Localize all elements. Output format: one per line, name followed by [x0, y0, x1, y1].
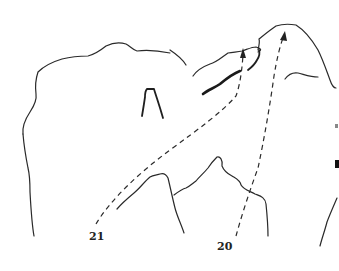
- leader-line-20: [236, 38, 283, 236]
- left-contour-lower: [23, 134, 34, 236]
- edge-mark-dark: [335, 160, 339, 168]
- outline-drawing: [0, 0, 339, 271]
- trapezoid-mark: [142, 89, 163, 118]
- peak-contour: [258, 24, 336, 88]
- arrowhead-20: [280, 31, 287, 41]
- upper-right-contour-small: [170, 50, 186, 65]
- edge-mark-small: [335, 124, 338, 128]
- middle-ridge-contour: [193, 47, 261, 76]
- bold-stroke: [203, 71, 240, 94]
- callout-label-20: 20: [217, 240, 232, 253]
- ridge-thick-edge: [248, 50, 259, 70]
- right-edge-contour: [320, 198, 337, 246]
- line-drawing-figure: 21 20: [0, 0, 339, 271]
- lower-middle-mountain: [174, 157, 268, 236]
- inner-right-contour: [285, 73, 318, 79]
- lower-left-mountain: [117, 174, 184, 233]
- leader-line-21: [96, 55, 243, 224]
- callout-label-21: 21: [89, 230, 104, 243]
